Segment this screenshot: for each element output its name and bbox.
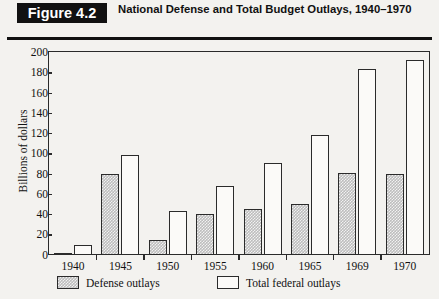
y-axis-tick-label: 200 [8,46,48,58]
x-axis-tick-mark [333,255,334,260]
y-axis-tick-mark [48,174,52,175]
bar-group [49,52,96,255]
bar-defense-1940 [54,253,72,255]
bar-group [286,52,333,255]
bar-total-1960 [264,163,282,254]
bar-group [334,52,381,255]
bar-group [381,52,428,255]
legend-label: Defense outlays [86,277,160,289]
bar-defense-1970 [386,174,404,255]
bar-total-1965 [311,135,329,255]
y-axis-ticks: 020406080100120140160180200 [0,40,48,299]
x-axis-tick-label: 1970 [375,260,435,272]
bar-total-1969 [358,69,376,254]
y-axis-tick-mark [48,72,52,73]
x-axis-tick-mark [380,255,381,260]
x-axis-tick-mark [191,255,192,260]
bar-total-1955 [216,186,234,255]
y-axis-tick-label: 180 [8,66,48,78]
y-axis-tick-label: 100 [8,147,48,159]
bars-container [49,52,428,255]
legend-label: Total federal outlays [246,277,340,289]
y-axis-tick-mark [48,133,52,134]
y-axis-tick-label: 0 [8,249,48,261]
bar-total-1945 [121,155,139,254]
y-axis-tick-label: 80 [8,168,48,180]
legend-swatch-defense [57,276,79,289]
figure-number-badge: Figure 4.2 [17,3,107,23]
x-axis-tick-mark [96,255,97,260]
legend-swatch-total [217,276,239,289]
bar-group [239,52,286,255]
figure-header: Figure 4.2 National Defense and Total Bu… [0,0,439,40]
bar-defense-1955 [196,214,214,255]
bar-total-1950 [169,211,187,255]
bar-chart: Billions of dollars 02040608010012014016… [0,40,439,299]
x-axis-tick-mark [143,255,144,260]
y-axis-tick-label: 20 [8,228,48,240]
y-axis-tick-mark [48,234,52,235]
y-axis-tick-label: 160 [8,87,48,99]
bar-group [144,52,191,255]
bar-defense-1969 [338,173,356,255]
x-axis-tick-mark [238,255,239,260]
bar-total-1970 [406,60,424,254]
x-axis-tick-mark [286,255,287,260]
y-axis-tick-label: 60 [8,188,48,200]
bar-total-1940 [74,245,92,255]
bar-defense-1945 [101,174,119,255]
bar-defense-1965 [291,204,309,255]
legend-item-defense: Defense outlays [57,276,160,289]
y-axis-tick-label: 40 [8,208,48,220]
bar-group [192,52,239,255]
y-axis-tick-label: 120 [8,127,48,139]
legend-item-total: Total federal outlays [217,276,340,289]
bar-group [97,52,144,255]
y-axis-tick-mark [48,194,52,195]
bar-defense-1960 [244,209,262,255]
y-axis-tick-mark [48,113,52,114]
figure-title: National Defense and Total Budget Outlay… [118,2,428,17]
y-axis-tick-label: 140 [8,107,48,119]
y-axis-tick-mark [48,153,52,154]
y-axis-tick-mark [48,93,52,94]
y-axis-tick-mark [48,214,52,215]
bar-defense-1950 [149,240,167,254]
